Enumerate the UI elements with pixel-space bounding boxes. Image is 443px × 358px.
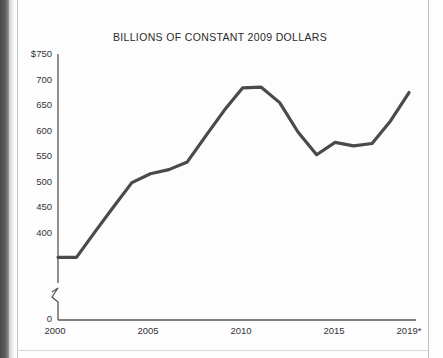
y-tick-label-750: $750 [16,48,52,59]
x-tick-label-2019: 2019* [388,325,430,336]
y-tick-label-550: 550 [16,150,52,161]
y-tick-label-700: 700 [16,74,52,85]
x-tick-label-2010: 2010 [220,325,262,336]
line-chart-svg [0,0,443,358]
axis-break-mark [52,288,58,320]
y-tick-label-500: 500 [16,176,52,187]
y-tick-label-zero: 0 [16,313,52,324]
x-tick-label-2000: 2000 [34,325,76,336]
y-tick-label-600: 600 [16,125,52,136]
y-tick-label-450: 450 [16,201,52,212]
data-series-line [58,87,409,257]
y-tick-label-400: 400 [16,227,52,238]
x-tick-label-2005: 2005 [127,325,169,336]
scanned-page: BILLIONS OF CONSTANT 2009 DOLLARS $750 7… [0,0,443,358]
x-tick-label-2015: 2015 [313,325,355,336]
y-tick-label-650: 650 [16,99,52,110]
chart-plot-area: $750 700 650 600 550 500 450 400 0 2000 … [0,0,443,358]
